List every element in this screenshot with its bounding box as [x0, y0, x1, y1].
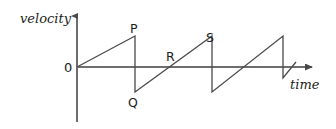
x-axis-label: time: [290, 77, 320, 92]
y-axis-label: velocity: [20, 11, 72, 26]
origin-label: 0: [64, 60, 72, 75]
point-label-p: P: [130, 21, 138, 36]
point-label-q: Q: [128, 95, 138, 110]
velocity-sawtooth-curve: [77, 36, 296, 92]
velocity-time-diagram: velocity time 0 P Q R S: [0, 0, 336, 129]
point-label-s: S: [206, 30, 214, 45]
point-label-r: R: [166, 49, 175, 64]
diagram-canvas: velocity time 0 P Q R S: [0, 0, 336, 129]
